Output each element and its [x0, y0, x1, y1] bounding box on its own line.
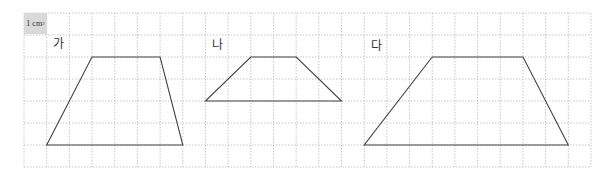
unit-label: 1 cm [26, 19, 42, 28]
grid-paper [0, 0, 610, 178]
grid-diagram: 1 cm2 가 나 다 [0, 0, 610, 178]
shape-label-ga: 가 [53, 38, 64, 50]
unit-label-exponent: 2 [42, 21, 45, 26]
shape-label-na: 나 [212, 39, 223, 51]
shape-label-da: 다 [371, 40, 382, 52]
grid-lines [24, 13, 591, 167]
unit-square-legend: 1 cm2 [24, 13, 47, 34]
